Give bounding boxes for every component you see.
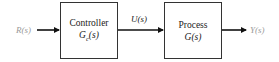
output-signal-label: Y(s)	[250, 25, 265, 35]
input-signal-label: R(s)	[16, 25, 31, 35]
control-signal-label: U(s)	[131, 14, 147, 24]
controller-transfer-function: Gc(s)	[79, 29, 99, 45]
controller-block: Controller Gc(s)	[60, 2, 118, 59]
process-title: Process	[178, 19, 207, 31]
signal-wires	[0, 0, 279, 62]
process-transfer-function: G(s)	[185, 31, 202, 43]
controller-title: Controller	[69, 17, 108, 29]
process-block: Process G(s)	[164, 2, 222, 59]
